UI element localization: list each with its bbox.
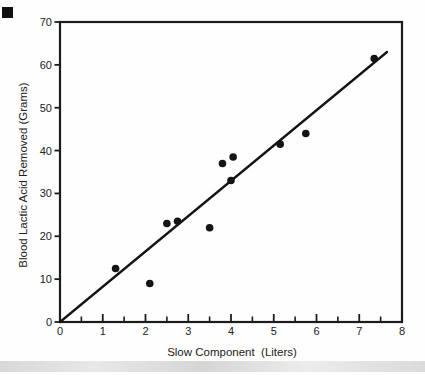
data-point: [163, 220, 171, 228]
y-axis-title: Blood Lactic Acid Removed (Grams): [17, 82, 29, 268]
data-point: [146, 280, 154, 288]
scatter-figure: 012345678010203040506070 Slow Component …: [0, 0, 425, 375]
plot-frame: [60, 22, 402, 322]
y-tick-label: 20: [40, 230, 52, 242]
data-point: [227, 177, 235, 185]
trend-line: [60, 52, 387, 322]
y-tick-label: 0: [46, 316, 52, 328]
data-point: [370, 55, 378, 63]
chart-svg: 012345678010203040506070 Slow Component …: [0, 0, 425, 375]
plot-area: 012345678010203040506070: [40, 16, 405, 337]
y-tick-label: 30: [40, 187, 52, 199]
data-point: [229, 153, 237, 161]
data-point: [276, 140, 284, 148]
x-axis-title: Slow Component (Liters): [167, 346, 297, 358]
data-point: [174, 217, 182, 225]
x-tick-label: 3: [185, 325, 191, 337]
x-tick-label: 0: [57, 325, 63, 337]
data-point: [219, 160, 227, 168]
data-point: [112, 265, 120, 273]
y-tick-label: 50: [40, 102, 52, 114]
x-tick-label: 6: [313, 325, 319, 337]
x-tick-label: 1: [100, 325, 106, 337]
data-point: [302, 130, 310, 138]
y-tick-label: 40: [40, 145, 52, 157]
y-tick-label: 70: [40, 16, 52, 28]
y-tick-label: 60: [40, 59, 52, 71]
x-tick-label: 5: [271, 325, 277, 337]
y-tick-label: 10: [40, 273, 52, 285]
scan-artifact-band: [0, 361, 425, 372]
data-point: [206, 224, 214, 232]
x-tick-label: 4: [228, 325, 234, 337]
x-tick-label: 2: [142, 325, 148, 337]
x-tick-label: 7: [356, 325, 362, 337]
x-tick-label: 8: [399, 325, 405, 337]
